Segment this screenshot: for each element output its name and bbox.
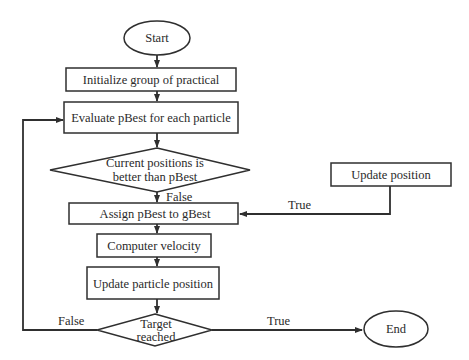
decision1-label-line1: Current positions is bbox=[106, 156, 204, 170]
end-label: End bbox=[386, 322, 407, 336]
decision1-true-label: True bbox=[288, 198, 312, 212]
assign-label: Assign pBest to gBest bbox=[100, 207, 211, 221]
evaluate-node: Evaluate pBest for each particle bbox=[64, 102, 238, 133]
update-particle-label: Update particle position bbox=[93, 277, 214, 291]
start-node: Start bbox=[124, 21, 190, 55]
velocity-node: Computer velocity bbox=[97, 234, 211, 257]
decision2-label-line1: Target bbox=[140, 317, 172, 331]
velocity-label: Computer velocity bbox=[107, 239, 201, 253]
flowchart-canvas: Start Initialize group of practical Eval… bbox=[0, 0, 469, 360]
decision1-label-line2: better than pBest bbox=[113, 170, 198, 184]
decision2-false-label: False bbox=[58, 314, 85, 328]
decision1-false-label: False bbox=[166, 190, 193, 204]
update-position-node: Update position bbox=[331, 163, 451, 186]
evaluate-label: Evaluate pBest for each particle bbox=[71, 111, 231, 125]
decision2-node: Target reached bbox=[97, 314, 212, 346]
initialize-node: Initialize group of practical bbox=[66, 68, 236, 91]
assign-node: Assign pBest to gBest bbox=[69, 203, 238, 224]
initialize-label: Initialize group of practical bbox=[83, 73, 220, 87]
arrow-decision2-false-loop bbox=[23, 120, 97, 330]
end-node: End bbox=[364, 311, 428, 347]
decision2-true-label: True bbox=[267, 314, 291, 328]
decision1-node: Current positions is better than pBest bbox=[50, 148, 250, 192]
update-particle-node: Update particle position bbox=[87, 267, 219, 299]
decision2-label-line2: reached bbox=[137, 330, 177, 344]
update-position-label: Update position bbox=[351, 168, 431, 182]
start-label: Start bbox=[145, 31, 169, 45]
arrow-update-position-to-assign bbox=[240, 186, 390, 214]
